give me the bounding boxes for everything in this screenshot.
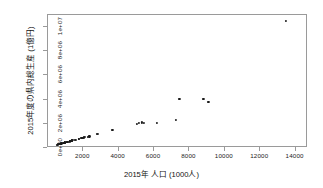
y-axis-label-wrapper: 2015年度の県内総生産 (1億円): [12, 14, 22, 147]
y-axis-tick-label: 1e+07: [56, 26, 63, 44]
data-point: [111, 129, 113, 131]
y-axis-tick-label: 2e+06: [56, 123, 63, 141]
data-point: [202, 98, 204, 100]
x-axis-tick: [295, 147, 296, 151]
y-axis-tick: [43, 50, 47, 51]
x-axis-label: 2015年 人口 (1000人): [0, 168, 323, 179]
y-axis-tick-label: 6e+06: [56, 74, 63, 92]
x-axis-tick-label: 14000: [286, 152, 304, 159]
y-axis-tick: [43, 74, 47, 75]
y-axis-tick: [43, 26, 47, 27]
y-axis-tick-label: 0e+00: [56, 147, 63, 165]
x-axis-tick: [153, 147, 154, 151]
scatter-plot-figure: 2000400060008000100001200014000 0e+002e+…: [0, 0, 323, 188]
x-axis-tick-label: 4000: [110, 152, 125, 159]
data-point: [138, 122, 140, 124]
x-axis-tick-label: 8000: [181, 152, 196, 159]
data-point: [285, 20, 287, 22]
data-point: [178, 98, 180, 100]
data-point: [175, 119, 177, 121]
x-axis-tick: [224, 147, 225, 151]
data-points-layer: [47, 14, 307, 147]
y-axis-tick-label: 8e+06: [56, 50, 63, 68]
data-point: [88, 135, 90, 137]
x-axis-tick: [188, 147, 189, 151]
x-axis-tick-label: 10000: [215, 152, 233, 159]
x-axis-tick: [259, 147, 260, 151]
data-point: [143, 122, 145, 124]
y-axis-tick: [43, 123, 47, 124]
data-point: [97, 133, 99, 135]
data-point: [84, 136, 86, 138]
y-axis-label: 2015年度の県内総生産 (1億円): [24, 0, 35, 160]
x-axis-tick: [118, 147, 119, 151]
x-axis-tick-label: 2000: [75, 152, 90, 159]
x-axis-tick: [82, 147, 83, 151]
y-axis-tick: [43, 147, 47, 148]
x-axis-tick-label: 6000: [146, 152, 161, 159]
x-axis-tick-label: 12000: [250, 152, 268, 159]
y-axis-tick-label: 4e+06: [56, 99, 63, 117]
y-axis-tick: [43, 99, 47, 100]
data-point: [207, 100, 209, 102]
data-point: [156, 121, 158, 123]
